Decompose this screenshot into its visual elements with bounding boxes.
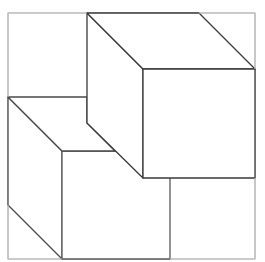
cube-diagram-canvas (0, 0, 265, 262)
cube-diagram (0, 0, 265, 262)
upper-cube-front-face (143, 69, 255, 178)
